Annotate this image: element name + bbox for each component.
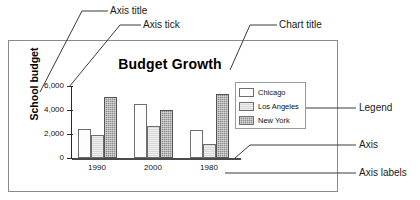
legend-swatch <box>239 102 254 111</box>
x-axis-label: 1980 <box>185 163 233 172</box>
callout-axis-labels: Axis labels <box>359 167 407 178</box>
y-axis-tick-label: 2,000 <box>22 129 64 138</box>
callout-chart-title: Chart title <box>279 19 322 30</box>
bar <box>216 94 229 158</box>
bar-group <box>184 86 240 158</box>
legend-label: New York <box>258 116 290 125</box>
bar <box>104 97 117 158</box>
legend-swatch <box>239 88 254 97</box>
callout-axis-tick: Axis tick <box>143 19 180 30</box>
plot-area <box>72 86 240 158</box>
legend-label: Chicago <box>258 88 286 97</box>
x-axis-line <box>72 158 241 160</box>
callout-axis-title: Axis title <box>110 5 147 16</box>
bar <box>147 126 160 158</box>
callout-axis: Axis <box>359 139 378 150</box>
legend-label: Los Angeles <box>258 102 299 111</box>
bar <box>134 104 147 158</box>
y-axis-tick-label: 6,000 <box>22 81 64 90</box>
chart-title: Budget Growth <box>95 56 245 72</box>
y-axis-tick <box>67 158 73 159</box>
legend-item: Chicago <box>239 86 302 99</box>
legend-item: New York <box>239 114 302 127</box>
x-axis-label: 1990 <box>73 163 121 172</box>
bar-group <box>128 86 184 158</box>
bar <box>160 110 173 158</box>
bar <box>91 135 104 158</box>
legend-item: Los Angeles <box>239 100 302 113</box>
legend: ChicagoLos AngelesNew York <box>235 82 306 129</box>
bar <box>190 130 203 158</box>
bar-group <box>72 86 128 158</box>
x-axis-label: 2000 <box>129 163 177 172</box>
legend-swatch <box>239 116 254 125</box>
bar <box>78 129 91 158</box>
bar <box>203 144 216 158</box>
callout-legend: Legend <box>359 102 392 113</box>
diagram-canvas: Budget Growth School budget 02,0004,0006… <box>0 0 420 200</box>
y-axis-tick-label: 4,000 <box>22 105 64 114</box>
y-axis-tick-label: 0 <box>22 153 64 162</box>
